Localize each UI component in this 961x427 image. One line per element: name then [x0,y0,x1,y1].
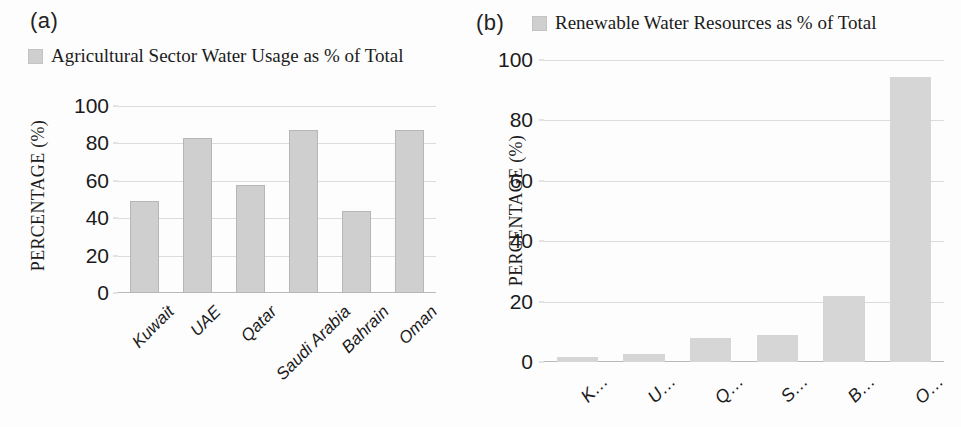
panel-b-label: (b) [476,10,504,36]
bar-bahrain[interactable] [823,296,864,362]
y-tick-label-20: 20 [510,290,533,314]
y-tick-label-60: 60 [510,169,533,193]
x-label-slot-uae: UAE [171,293,224,294]
y-tick-label-80: 80 [510,108,533,132]
bar-slot-bahrain [811,60,878,362]
bar-group-panel-a [118,106,436,293]
chart-panel-b: (b) Renewable Water Resources as % of To… [470,0,961,427]
bar-saudi-arabia[interactable] [289,130,318,293]
x-tick-label-saudi-arabia: S… [777,371,813,407]
x-tick-label-bahrain: Bahrain [337,302,393,358]
y-tick-label-0: 0 [521,350,533,374]
y-tick-label-20: 20 [86,244,109,268]
x-tick-label-oman: Oman [394,302,441,349]
x-label-slot-oman: O… [877,362,944,363]
x-tick-label-uae: U… [644,371,681,408]
plot-area-panel-a: 100 80 60 40 20 0 [118,106,436,293]
y-tick-label-40: 40 [510,229,533,253]
y-axis-title-panel-a: PERCENTAGE (%) [28,101,49,291]
bar-saudi-arabia[interactable] [757,335,798,362]
legend-label-agricultural-water-usage: Agricultural Sector Water Usage as % of … [51,45,404,67]
x-label-slot-bahrain: Bahrain [330,293,383,294]
y-tick-label-40: 40 [86,206,109,230]
bar-slot-qatar [677,60,744,362]
y-tick-label-80: 80 [86,131,109,155]
x-tick-label-bahrain: B… [844,371,880,407]
bar-slot-saudi-arabia [744,60,811,362]
x-axis-labels-panel-b: K… U… Q… S… B… O… [544,362,944,363]
bar-slot-kuwait [544,60,611,362]
x-tick-label-qatar: Qatar [237,302,281,346]
bar-uae[interactable] [623,354,664,362]
bar-kuwait[interactable] [130,201,159,293]
chart-panel-a: (a) Agricultural Sector Water Usage as %… [0,0,470,427]
x-tick-label-saudi-arabia: Saudi Arabia [272,302,355,385]
bar-slot-bahrain [330,106,383,293]
y-tick-label-60: 60 [86,169,109,193]
bar-uae[interactable] [183,138,212,293]
x-label-slot-bahrain: B… [811,362,878,363]
bar-slot-uae [611,60,678,362]
bar-kuwait[interactable] [557,357,598,362]
y-axis-title-panel-b: PERCENTAGE (%) [506,116,527,306]
bar-oman[interactable] [890,77,931,362]
y-tick-label-100: 100 [74,94,109,118]
x-tick-label-qatar: Q… [710,371,747,408]
x-label-slot-kuwait: Kuwait [118,293,171,294]
legend-panel-a: Agricultural Sector Water Usage as % of … [28,45,404,67]
x-label-slot-saudi-arabia: Saudi Arabia [277,293,330,294]
bar-oman[interactable] [395,130,424,293]
bar-qatar[interactable] [690,338,731,362]
panel-a-label: (a) [30,8,58,34]
bar-qatar[interactable] [236,185,265,293]
y-tick-label-0: 0 [97,281,109,305]
x-label-slot-oman: Oman [383,293,436,294]
figure-canvas: (a) Agricultural Sector Water Usage as %… [0,0,961,427]
bar-slot-oman [877,60,944,362]
legend-panel-b: Renewable Water Resources as % of Total [532,12,876,34]
bar-slot-saudi-arabia [277,106,330,293]
bar-slot-kuwait [118,106,171,293]
bar-group-panel-b [544,60,944,362]
x-tick-label-oman: O… [910,371,947,408]
legend-label-renewable-water-resources: Renewable Water Resources as % of Total [555,12,876,34]
legend-swatch-icon [532,16,547,31]
legend-swatch-icon [28,49,43,64]
x-label-slot-saudi-arabia: S… [744,362,811,363]
x-tick-label-kuwait: Kuwait [128,302,178,352]
x-label-slot-qatar: Q… [677,362,744,363]
x-tick-label-kuwait: K… [577,371,613,407]
bar-slot-qatar [224,106,277,293]
bar-bahrain[interactable] [342,211,371,293]
x-label-slot-kuwait: K… [544,362,611,363]
x-label-slot-qatar: Qatar [224,293,277,294]
x-label-slot-uae: U… [611,362,678,363]
x-axis-labels-panel-a: Kuwait UAE Qatar Saudi Arabia Bahrain Om… [118,293,436,294]
bar-slot-uae [171,106,224,293]
y-tick-label-100: 100 [498,48,533,72]
bar-slot-oman [383,106,436,293]
x-tick-label-uae: UAE [186,302,225,341]
plot-area-panel-b: 100 80 60 40 20 0 [544,60,944,362]
